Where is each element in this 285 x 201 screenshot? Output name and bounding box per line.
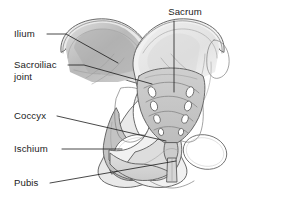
- label-sacroiliac-joint: Sacroiliac: [14, 59, 57, 70]
- label-ischium: Ischium: [14, 143, 48, 154]
- pelvis-illustration: Ilium Sacroiliac joint Sacrum Coccyx Isc…: [0, 0, 285, 201]
- label-ilium: Ilium: [14, 28, 35, 39]
- label-pubis: Pubis: [14, 177, 39, 188]
- label-coccyx: Coccyx: [14, 110, 46, 121]
- label-sacrum: Sacrum: [168, 6, 202, 17]
- label-sacroiliac-joint-line2: joint: [13, 71, 32, 82]
- obturator-foramen-right: [180, 130, 231, 174]
- pelvis-diagram: Ilium Sacroiliac joint Sacrum Coccyx Isc…: [0, 0, 285, 201]
